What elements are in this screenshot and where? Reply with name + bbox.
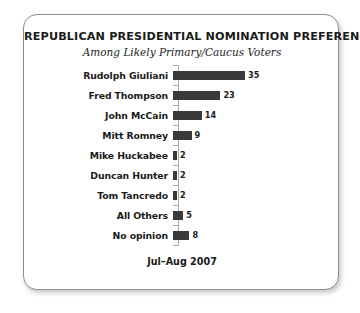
axis-tick xyxy=(173,185,178,186)
bar-row: John McCain14 xyxy=(24,105,340,125)
bar-row: Mitt Romney9 xyxy=(24,125,340,145)
chart-title: REPUBLICAN PRESIDENTIAL NOMINATION PREFE… xyxy=(24,30,340,43)
bar-value-label: 35 xyxy=(248,70,259,80)
axis-tick xyxy=(173,165,178,166)
bar xyxy=(173,191,177,200)
bar xyxy=(173,231,189,240)
bar-row: Duncan Hunter2 xyxy=(24,165,340,185)
bar-track: 23 xyxy=(173,85,340,105)
bar-row: Tom Tancredo2 xyxy=(24,185,340,205)
bar-value-label: 5 xyxy=(186,210,192,220)
bar-track: 2 xyxy=(173,145,340,165)
axis-tick xyxy=(173,125,178,126)
axis-tick xyxy=(173,245,178,246)
axis-tick xyxy=(173,65,178,66)
screenshot-root: REPUBLICAN PRESIDENTIAL NOMINATION PREFE… xyxy=(0,0,360,313)
bar-chart-plot: Rudolph Giuliani35Fred Thompson23John Mc… xyxy=(24,65,340,245)
bar-category-label: All Others xyxy=(24,210,173,221)
chart-card: REPUBLICAN PRESIDENTIAL NOMINATION PREFE… xyxy=(23,14,339,290)
bar-row: All Others5 xyxy=(24,205,340,225)
bar-category-label: Duncan Hunter xyxy=(24,170,173,181)
axis-tick xyxy=(173,205,178,206)
bar-category-label: John McCain xyxy=(24,110,173,121)
bar xyxy=(173,211,183,220)
bar-value-label: 2 xyxy=(180,170,186,180)
bar xyxy=(173,171,177,180)
bar-category-label: Mitt Romney xyxy=(24,130,173,141)
bar-track: 5 xyxy=(173,205,340,225)
bar-value-label: 2 xyxy=(180,150,186,160)
axis-tick xyxy=(173,105,178,106)
bar xyxy=(173,91,220,100)
bar-value-label: 14 xyxy=(205,110,216,120)
bar xyxy=(173,131,192,140)
bar-track: 2 xyxy=(173,165,340,185)
bar-track: 14 xyxy=(173,105,340,125)
bar-category-label: Fred Thompson xyxy=(24,90,173,101)
bar-row: Rudolph Giuliani35 xyxy=(24,65,340,85)
bar-track: 2 xyxy=(173,185,340,205)
bar-row: Mike Huckabee2 xyxy=(24,145,340,165)
bar xyxy=(173,111,202,120)
bar xyxy=(173,151,177,160)
axis-tick xyxy=(173,85,178,86)
bar-category-label: No opinion xyxy=(24,230,173,241)
axis-tick xyxy=(173,225,178,226)
bar-value-label: 9 xyxy=(195,130,201,140)
bar-category-label: Rudolph Giuliani xyxy=(24,70,173,81)
bar-value-label: 2 xyxy=(180,190,186,200)
bar-category-label: Tom Tancredo xyxy=(24,190,173,201)
bar-row: No opinion8 xyxy=(24,225,340,245)
bar-track: 9 xyxy=(173,125,340,145)
bar-row: Fred Thompson23 xyxy=(24,85,340,105)
bar xyxy=(173,71,245,80)
bar-track: 35 xyxy=(173,65,340,85)
chart-footer-date: Jul–Aug 2007 xyxy=(24,256,340,267)
bar-category-label: Mike Huckabee xyxy=(24,150,173,161)
bar-value-label: 23 xyxy=(223,90,234,100)
chart-subtitle: Among Likely Primary/Caucus Voters xyxy=(24,46,340,58)
axis-tick xyxy=(173,145,178,146)
bar-value-label: 8 xyxy=(192,230,198,240)
bar-track: 8 xyxy=(173,225,340,245)
